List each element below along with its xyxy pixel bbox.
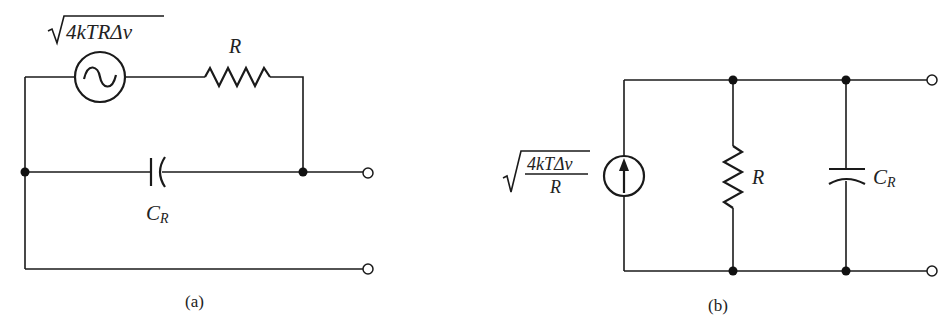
wire-a-top-right <box>270 77 303 172</box>
junction-a-left <box>21 168 30 177</box>
resistor-label-b: R <box>751 166 764 188</box>
capacitor-b-icon <box>829 169 865 184</box>
source-label-a: 4kTRΔν <box>48 16 164 44</box>
panel-b: 4kTΔν R R CR (b) <box>503 75 937 315</box>
current-source-icon <box>604 156 644 196</box>
terminal-b-bottom <box>927 266 937 276</box>
junction-b-bottom-r <box>729 267 738 276</box>
source-label-b: 4kTΔν R <box>503 151 590 197</box>
panel-a: 4kTRΔν R CR (a) <box>21 16 374 311</box>
caption-a: (a) <box>185 292 204 311</box>
terminal-a-bottom <box>363 264 373 274</box>
junction-a-right <box>299 168 308 177</box>
terminal-a-top <box>363 168 373 178</box>
capacitor-label-b: CR <box>873 165 896 190</box>
junction-b-top-c <box>842 76 851 85</box>
resistor-a-icon <box>205 68 270 86</box>
resistor-b-icon <box>724 146 742 208</box>
source-numerator-b: 4kTΔν <box>527 154 573 174</box>
junction-b-top-r <box>729 76 738 85</box>
terminal-b-top <box>927 75 937 85</box>
resistor-label-a: R <box>228 35 241 57</box>
capacitor-label-a: CR <box>146 201 169 226</box>
caption-b: (b) <box>708 296 728 315</box>
junction-b-bottom-c <box>842 267 851 276</box>
source-expression-a: 4kTRΔν <box>66 20 133 44</box>
source-denominator-b: R <box>549 177 561 197</box>
circuit-figure: 4kTRΔν R CR (a) <box>0 0 948 331</box>
ac-source-icon <box>75 52 125 102</box>
